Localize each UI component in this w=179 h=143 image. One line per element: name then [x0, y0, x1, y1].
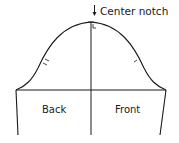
front-panel-label: Front — [115, 105, 140, 115]
back-panel-label: Back — [42, 105, 66, 115]
center-notch-label: Center notch — [100, 6, 168, 17]
back-underarm-seam — [16, 90, 18, 135]
arrow-down-icon — [93, 5, 97, 16]
back-double-notch — [43, 59, 49, 65]
sleeve-pattern-diagram — [0, 0, 179, 143]
front-underarm-seam — [160, 90, 166, 135]
front-single-notch — [134, 60, 137, 62]
